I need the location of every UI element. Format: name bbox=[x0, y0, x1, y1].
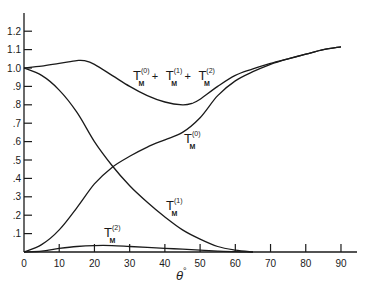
y-tick-label: .8 bbox=[13, 99, 22, 110]
y-tick-label: 1.1 bbox=[7, 44, 21, 55]
y-tick-label: .2 bbox=[13, 210, 22, 221]
x-tick-label: 40 bbox=[159, 258, 171, 269]
x-tick-label: 50 bbox=[195, 258, 207, 269]
x-tick-label: 60 bbox=[230, 258, 242, 269]
y-tick-label: 1.0 bbox=[7, 63, 21, 74]
x-tick-label: 30 bbox=[124, 258, 136, 269]
y-tick-label: .5 bbox=[13, 155, 22, 166]
y-tick-label: .6 bbox=[13, 136, 22, 147]
y-tick-label: .4 bbox=[13, 173, 22, 184]
label-sum: T(0)M + T(1)M + T(2)M bbox=[133, 66, 215, 89]
label-t1: T(1)M bbox=[166, 197, 183, 217]
curve-sum bbox=[24, 47, 341, 105]
curve-t0 bbox=[24, 47, 341, 252]
x-axis-label: θ° bbox=[176, 266, 187, 283]
x-tick-label: 70 bbox=[265, 258, 277, 269]
x-tick-label: 80 bbox=[300, 258, 312, 269]
y-tick-label: .9 bbox=[13, 81, 22, 92]
label-t0: T(0)M bbox=[184, 130, 201, 150]
y-tick-label: .7 bbox=[13, 118, 22, 129]
y-tick-label: .3 bbox=[13, 191, 22, 202]
chart: 0102030405060708090 .1.2.3.4.5.6.7.8.91.… bbox=[0, 0, 367, 290]
x-tick-label: 0 bbox=[21, 258, 27, 269]
y-ticks: .1.2.3.4.5.6.7.8.91.01.11.2 bbox=[7, 26, 32, 239]
curves bbox=[24, 47, 341, 252]
x-tick-label: 90 bbox=[335, 258, 347, 269]
y-tick-label: .1 bbox=[13, 228, 22, 239]
x-tick-label: 10 bbox=[54, 258, 66, 269]
label-t2: T(2)M bbox=[104, 224, 121, 244]
x-tick-label: 20 bbox=[89, 258, 101, 269]
y-tick-label: 1.2 bbox=[7, 26, 21, 37]
